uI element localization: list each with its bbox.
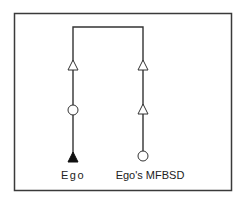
kinship-diagram: Ego Ego's MFBSD: [0, 0, 242, 198]
female-circle-icon: [68, 105, 78, 115]
female-circle-icon: [138, 151, 148, 161]
male-triangle-icon: [138, 104, 148, 114]
sibling-connector-line: [73, 27, 143, 157]
ego-filled-triangle-icon: [68, 152, 78, 162]
ego-label: Ego: [61, 169, 85, 181]
male-triangle-icon: [68, 60, 78, 70]
male-triangle-icon: [138, 60, 148, 70]
relative-label: Ego's MFBSD: [116, 169, 185, 181]
diagram-frame: [15, 14, 232, 191]
